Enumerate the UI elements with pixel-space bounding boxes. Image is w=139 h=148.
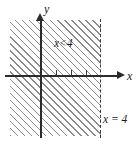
boundary-dashed-line — [100, 19, 101, 138]
x-axis-tick — [86, 70, 87, 76]
x-axis — [5, 75, 119, 77]
boundary-equation-label: x = 4 — [103, 114, 127, 126]
y-axis-label: y — [44, 3, 49, 15]
inequality-graph-figure: y x x<4 x = 4 — [0, 0, 139, 148]
region-inequality-label: x<4 — [54, 38, 73, 50]
x-axis-arrowhead-icon — [117, 71, 125, 79]
x-axis-tick — [71, 70, 72, 76]
x-axis-tick — [56, 70, 57, 76]
y-axis — [40, 19, 42, 138]
x-axis-label: x — [127, 70, 132, 82]
